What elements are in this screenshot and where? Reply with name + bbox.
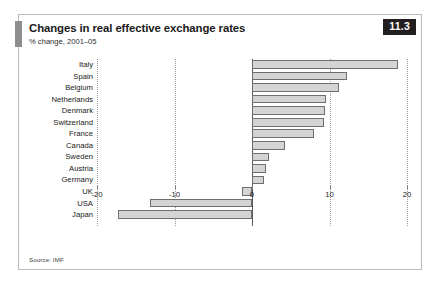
bar	[252, 153, 269, 162]
y-axis-label: Spain	[19, 71, 97, 83]
bar-row	[97, 151, 407, 163]
bar-row	[97, 128, 407, 140]
x-axis-tick	[407, 186, 408, 189]
bar-row	[97, 198, 407, 210]
figure-number-badge: 11.3	[383, 19, 416, 35]
plot-wrapper: ItalySpainBelgiumNetherlandsDenmarkSwitz…	[19, 55, 421, 269]
bar-row	[97, 59, 407, 71]
bar	[252, 83, 339, 92]
bar	[252, 141, 285, 150]
source-note: Source: IMF	[29, 256, 64, 263]
x-axis-label: 20	[403, 190, 412, 199]
y-axis-label: Sweden	[19, 151, 97, 163]
y-axis-label: Germany	[19, 174, 97, 186]
bar	[252, 129, 314, 138]
bar	[252, 72, 347, 81]
x-axis-tick	[97, 186, 98, 189]
y-axis-label: USA	[19, 198, 97, 210]
bar-row	[97, 82, 407, 94]
chart-subtitle: % change, 2001–05	[29, 36, 329, 47]
bar-row	[97, 117, 407, 129]
x-axis-label: 0	[250, 190, 254, 199]
y-axis-label: UK	[19, 186, 97, 198]
y-axis-label: Belgium	[19, 82, 97, 94]
x-axis-tick	[252, 186, 253, 189]
bar	[118, 210, 252, 219]
x-axis-label: 10	[325, 190, 334, 199]
bar	[252, 106, 325, 115]
bar	[252, 95, 326, 104]
page-title: Changes in real effective exchange rates	[29, 22, 329, 35]
bar	[252, 164, 266, 173]
bar-row	[97, 140, 407, 152]
bar-row	[97, 174, 407, 186]
y-axis-label: France	[19, 128, 97, 140]
y-axis-labels: ItalySpainBelgiumNetherlandsDenmarkSwitz…	[19, 59, 97, 221]
x-axis-tick	[330, 186, 331, 189]
plot-area	[97, 59, 407, 226]
bar	[252, 118, 324, 127]
y-axis-label: Japan	[19, 209, 97, 221]
bar-row	[97, 94, 407, 106]
bar-row	[97, 71, 407, 83]
x-axis-label: -10	[169, 190, 180, 199]
y-axis-label: Netherlands	[19, 94, 97, 106]
y-axis-label: Denmark	[19, 105, 97, 117]
y-axis-label: Italy	[19, 59, 97, 71]
title-block: Changes in real effective exchange rates…	[29, 22, 329, 47]
bar-row	[97, 209, 407, 221]
y-axis-label: Canada	[19, 140, 97, 152]
accent-bar	[15, 21, 22, 47]
figure-panel: Changes in real effective exchange rates…	[18, 14, 422, 270]
x-axis-tick	[175, 186, 176, 189]
gridline-20	[407, 59, 408, 226]
bar-row	[97, 163, 407, 175]
y-axis-label: Switzerland	[19, 117, 97, 129]
x-axis-label: -20	[91, 190, 102, 199]
bar	[252, 176, 264, 185]
bar	[150, 199, 252, 208]
bar	[252, 60, 398, 69]
y-axis-label: Austria	[19, 163, 97, 175]
bar-row	[97, 105, 407, 117]
